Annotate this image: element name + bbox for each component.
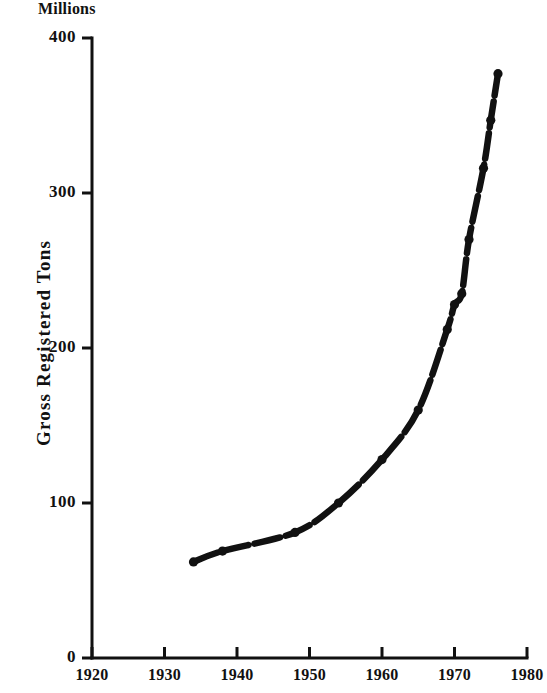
x-tick-label-1920: 1920 — [57, 666, 127, 684]
data-point-1969 — [443, 325, 452, 334]
x-tick-label-1960: 1960 — [347, 666, 417, 684]
data-point-1972 — [464, 235, 473, 244]
data-point-1971 — [457, 289, 466, 298]
data-point-1974 — [479, 164, 488, 173]
x-tick-label-1950: 1950 — [275, 666, 345, 684]
x-tick-label-1930: 1930 — [130, 666, 200, 684]
y-tick-label-100: 100 — [20, 492, 76, 512]
data-point-1976 — [493, 69, 502, 78]
series-markers — [189, 69, 503, 566]
x-tick-label-1970: 1970 — [420, 666, 490, 684]
data-point-1975 — [486, 116, 495, 125]
data-point-1960 — [377, 455, 386, 464]
data-point-1954 — [334, 498, 343, 507]
y-tick-label-0: 0 — [20, 647, 76, 667]
y-tick-label-400: 400 — [20, 27, 76, 47]
line-chart: Millions Gross Registered Tons 010020030… — [0, 0, 547, 693]
series-line-gross-registered-tons — [194, 74, 499, 562]
data-series-group — [189, 69, 503, 566]
units-caption: Millions — [38, 0, 96, 18]
data-point-1970 — [450, 300, 459, 309]
x-tick-label-1940: 1940 — [202, 666, 272, 684]
x-tick-label-1980: 1980 — [492, 666, 547, 684]
data-point-1948 — [290, 528, 299, 537]
y-tick-label-200: 200 — [20, 337, 76, 357]
data-point-1934 — [189, 557, 198, 566]
data-point-1938 — [218, 546, 227, 555]
x-ticks-group — [92, 647, 527, 658]
plot-area — [0, 0, 547, 693]
data-point-1965 — [414, 405, 423, 414]
axes-group — [92, 38, 527, 658]
y-tick-label-300: 300 — [20, 182, 76, 202]
